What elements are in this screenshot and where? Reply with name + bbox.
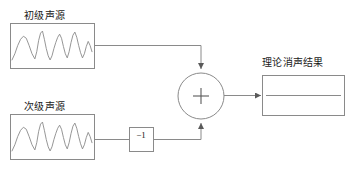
connection-inverter-to-sum — [153, 123, 201, 140]
secondary-source-box — [11, 115, 95, 160]
noise-cancellation-block-diagram: 初级声源 次级声源 理论消声结果 −1 — [0, 0, 353, 175]
diagram-graphics — [0, 0, 353, 175]
primary-source-label: 初级声源 — [24, 10, 65, 22]
primary-source-box — [11, 24, 95, 69]
secondary-source-label: 次级声源 — [24, 101, 65, 113]
result-label: 理论消声结果 — [262, 57, 324, 69]
connection-primary-to-sum — [94, 46, 201, 70]
inverter-gain-label: −1 — [130, 130, 152, 140]
